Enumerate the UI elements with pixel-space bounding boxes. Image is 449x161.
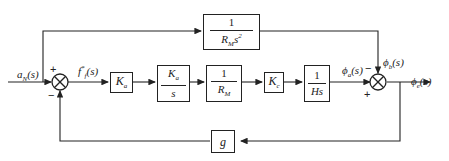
integrator-block: Ka s [157,65,190,102]
feedback-block-g: g [211,130,235,153]
hs-block: 1 Hs [304,65,330,102]
sum1-minus-sign: − [48,89,54,101]
input-label: aN(s) [17,68,39,83]
block-diagram: 1 RMs2 Ka Ka s 1 RM Kc 1 Hs g aN(s) f*f(… [0,0,449,161]
gain-block-kc: Kc [264,72,284,93]
phi-b-label: ϕb(s) [383,56,404,71]
resistance-block: 1 RM [206,65,242,102]
sum1-output-label: f*f(s) [78,64,98,80]
sum2-plus-sign: + [364,88,370,100]
sum1-plus-sign: + [50,63,56,75]
phi-a-label: ϕa(s) [342,64,363,79]
gain-block-ka: Ka [110,72,133,93]
output-label: ϕe(s) [411,75,431,90]
feedforward-block: 1 RMs2 [203,14,260,50]
sum2-minus-sign: − [365,62,371,74]
